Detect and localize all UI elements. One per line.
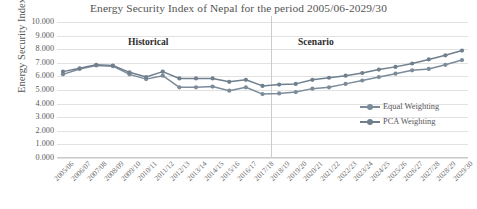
data-point	[410, 61, 414, 65]
legend-marker-equal-weighting	[360, 102, 380, 111]
data-point	[127, 70, 131, 74]
y-axis-tick-label: 0.000	[22, 154, 54, 162]
data-point	[211, 76, 215, 80]
legend-item-pca-weighting[interactable]: PCA Weighting	[360, 115, 472, 128]
annotation-scenario: Scenario	[298, 36, 334, 47]
data-point	[94, 63, 98, 67]
y-axis-tick-label: 1.000	[22, 140, 54, 148]
data-point	[344, 82, 348, 86]
data-point	[260, 84, 264, 88]
data-point	[111, 63, 115, 67]
data-point	[177, 85, 181, 89]
data-point	[194, 85, 198, 89]
y-axis-tick-label: 2.000	[22, 127, 54, 135]
data-point	[410, 68, 414, 72]
chart-legend: Equal Weighting PCA Weighting	[360, 100, 472, 130]
data-point	[393, 65, 397, 69]
chart-container: Energy Security Index of Nepal for the p…	[0, 0, 477, 209]
y-axis-tick-label: 6.000	[22, 72, 54, 80]
y-axis-tick-label: 9.000	[22, 32, 54, 40]
annotation-historical: Historical	[128, 36, 169, 47]
y-axis-tick-label: 3.000	[22, 113, 54, 121]
data-point	[61, 70, 65, 74]
data-point	[244, 85, 248, 89]
data-point	[360, 71, 364, 75]
data-point	[260, 92, 264, 96]
series-plot	[57, 22, 468, 158]
data-point	[294, 90, 298, 94]
data-point	[194, 76, 198, 80]
y-axis-tick-label: 4.000	[22, 100, 54, 108]
legend-label-equal-weighting: Equal Weighting	[383, 102, 439, 111]
chart-title: Energy Security Index of Nepal for the p…	[0, 2, 477, 14]
data-point	[443, 53, 447, 57]
data-point	[427, 57, 431, 61]
legend-label-pca-weighting: PCA Weighting	[383, 117, 435, 126]
data-point	[277, 91, 281, 95]
data-point	[310, 87, 314, 91]
data-point	[460, 48, 464, 52]
plot-area	[57, 22, 468, 158]
y-axis-tick-label: 8.000	[22, 45, 54, 53]
data-point	[144, 75, 148, 79]
data-point	[460, 58, 464, 62]
data-point	[443, 63, 447, 67]
legend-item-equal-weighting[interactable]: Equal Weighting	[360, 100, 472, 113]
data-point	[327, 76, 331, 80]
data-point	[177, 76, 181, 80]
data-point	[78, 66, 82, 70]
data-point	[344, 74, 348, 78]
data-point	[377, 75, 381, 79]
data-point	[277, 82, 281, 86]
y-axis-tick-label: 5.000	[22, 86, 54, 94]
data-point	[227, 89, 231, 93]
data-point	[310, 78, 314, 82]
series-line-pca-weighting	[63, 51, 462, 86]
x-axis-tick-labels: 2005/062006/072007/082008/092009/102010/…	[57, 160, 472, 209]
data-point	[227, 80, 231, 84]
data-point	[244, 78, 248, 82]
legend-marker-pca-weighting	[360, 117, 380, 126]
data-point	[327, 85, 331, 89]
data-point	[393, 72, 397, 76]
y-axis-tick-label: 7.000	[22, 59, 54, 67]
y-axis-tick-label: 10.000	[22, 18, 54, 26]
data-point	[427, 67, 431, 71]
data-point	[360, 78, 364, 82]
data-point	[161, 74, 165, 78]
data-point	[161, 70, 165, 74]
y-axis-tick-labels: 10.0009.0008.0007.0006.0005.0004.0003.00…	[22, 22, 54, 158]
data-point	[211, 85, 215, 89]
data-point	[377, 68, 381, 72]
data-point	[294, 82, 298, 86]
